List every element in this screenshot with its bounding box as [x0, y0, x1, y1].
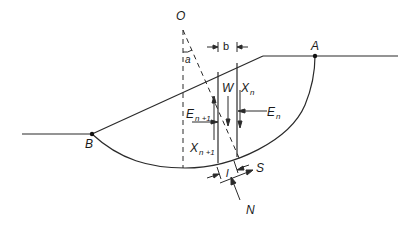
force-xn1-label: Xn +1	[190, 142, 215, 157]
angle-arc	[183, 50, 192, 52]
base-length-label: l	[226, 168, 228, 179]
normal-n-label: N	[246, 204, 255, 216]
force-xn-label: Xn	[241, 82, 254, 97]
point-b-dot	[90, 132, 94, 136]
weight-w-label: W	[222, 82, 233, 94]
angle-alpha-label: a	[185, 55, 191, 65]
slope-stability-diagram: O A B a b W Xn En En +1 Xn +1 l S N	[0, 0, 415, 230]
point-o-label: O	[176, 10, 185, 22]
shear-s-label: S	[256, 162, 264, 174]
point-a-label: A	[311, 40, 319, 52]
force-en1-label: En +1	[186, 108, 211, 123]
point-b-label: B	[85, 138, 93, 150]
slice-width-label: b	[223, 41, 229, 52]
force-en-label: En	[267, 106, 280, 121]
point-a-dot	[313, 54, 317, 58]
